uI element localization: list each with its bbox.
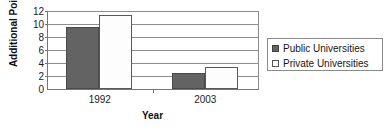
legend-label: Private Universities: [283, 57, 369, 70]
y-tick-label: 2: [27, 70, 44, 83]
bar-private-universities: [99, 15, 132, 89]
y-tickmark: [45, 76, 48, 77]
y-axis-tick-labels: 12 10 8 6 4 2 0: [27, 4, 44, 96]
y-tick-label: 4: [27, 57, 44, 70]
x-tick-label: 1992: [47, 93, 153, 107]
y-tickmark: [45, 63, 48, 64]
y-tick-label: 6: [27, 44, 44, 57]
y-axis-title: Additional Points: [7, 0, 21, 68]
y-tick-label: 0: [27, 83, 44, 96]
y-tickmark: [45, 24, 48, 25]
plot-area: [47, 11, 259, 90]
gridline: [48, 11, 259, 12]
x-tick-label: 2003: [153, 93, 259, 107]
y-tickmark: [45, 37, 48, 38]
bar-public-universities: [172, 73, 205, 89]
legend-swatch-icon: [272, 60, 279, 67]
legend-swatch-icon: [272, 45, 279, 52]
y-tick-label: 10: [27, 18, 44, 31]
y-tick-label: 8: [27, 31, 44, 44]
legend-entry-private: Private Universities: [272, 56, 382, 70]
gridline: [48, 24, 259, 25]
legend-entry-public: Public Universities: [272, 41, 382, 55]
bar-chart: Additional Points 12 10 8 6 4 2 0 Year P…: [0, 0, 385, 130]
x-tickmark: [153, 90, 154, 93]
bar-public-universities: [66, 27, 99, 89]
y-tickmark: [45, 50, 48, 51]
chart-legend: Public Universities Private Universities: [267, 38, 383, 71]
y-tick-label: 12: [27, 5, 44, 18]
x-axis-title: Year: [47, 110, 258, 121]
legend-label: Public Universities: [283, 42, 365, 55]
y-tickmark: [45, 11, 48, 12]
bar-private-universities: [205, 67, 238, 89]
